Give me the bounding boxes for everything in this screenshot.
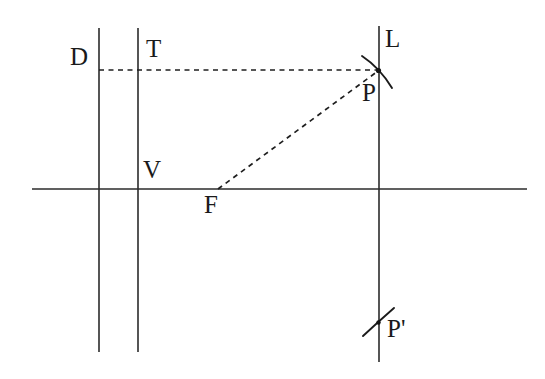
- label-V: V: [143, 157, 161, 182]
- label-D: D: [70, 44, 88, 69]
- point-P-prime-marker: [376, 320, 380, 324]
- label-P-prime: P': [387, 316, 405, 341]
- dashed-segment-F-to-P: [218, 71, 378, 189]
- label-T: T: [146, 36, 161, 61]
- diagram-canvas: D T L V F P P': [0, 0, 545, 379]
- label-L: L: [385, 26, 400, 51]
- label-F: F: [204, 192, 218, 217]
- point-P-marker: [376, 68, 381, 73]
- label-P: P: [362, 80, 376, 105]
